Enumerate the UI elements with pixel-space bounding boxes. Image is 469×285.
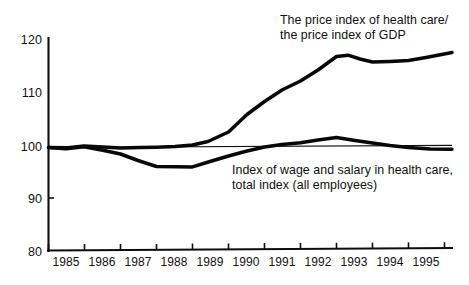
y-tick-label-120: 120	[6, 34, 42, 47]
y-tick-label-110: 110	[6, 87, 42, 100]
x-tick-label-1993: 1993	[336, 256, 372, 268]
x-tick-label-1995: 1995	[408, 256, 444, 268]
x-tick-label-1992: 1992	[300, 256, 336, 268]
series-line-price-index	[49, 53, 453, 149]
x-tick-label-1987: 1987	[120, 256, 156, 268]
y-tick-label-100: 100	[6, 141, 42, 154]
x-tick-label-1991: 1991	[264, 256, 300, 268]
price-index-label-line1: The price index of health care/	[280, 13, 448, 28]
price-index-label: The price index of health care/ the pric…	[280, 13, 448, 43]
x-tick-label-1986: 1986	[84, 256, 120, 268]
x-tick-label-1990: 1990	[228, 256, 264, 268]
y-tick-label-80: 80	[6, 246, 42, 259]
x-tick-label-1988: 1988	[156, 256, 192, 268]
y-tick-label-90: 90	[6, 193, 42, 206]
price-index-label-line2: the price index of GDP	[280, 28, 448, 43]
x-tick-label-1985: 1985	[48, 256, 84, 268]
wage-index-label: Index of wage and salary in health care,…	[232, 163, 453, 193]
wage-index-label-line2: total index (all employees)	[232, 178, 453, 193]
x-tick-label-1994: 1994	[372, 256, 408, 268]
line-chart: 120 110 100 90 80 1985 1986 1987 1988 19…	[0, 0, 469, 285]
wage-index-label-line1: Index of wage and salary in health care,	[232, 163, 453, 178]
x-axis-line	[48, 248, 452, 251]
x-tick-label-1989: 1989	[192, 256, 228, 268]
